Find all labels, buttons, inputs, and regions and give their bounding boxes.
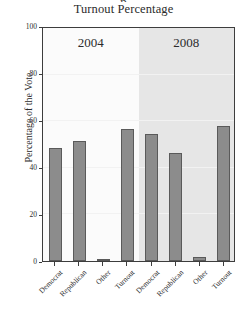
plot-area: 2004 2008 [42,27,235,262]
x-tick-mark [102,262,103,266]
bar [97,259,110,261]
chart-title: Turnout Percentage [0,2,247,16]
bar [193,257,206,261]
bar [121,129,134,261]
panel-label-2004: 2004 [43,35,139,50]
gridline-20 [43,213,234,214]
panel-label-2008: 2008 [139,35,235,50]
x-tick-mark [78,262,79,266]
bar [217,126,230,261]
bar [73,141,86,261]
x-tick-mark [54,262,55,266]
y-tick-label: 0 [3,258,37,266]
gridline-80 [43,74,234,75]
y-tick-mark [39,121,42,122]
x-tick-mark [223,262,224,266]
bar [169,153,182,261]
y-tick-mark [39,74,42,75]
x-tick-mark [126,262,127,266]
y-tick-label: 20 [3,211,37,219]
chart-figure: p Turnout Percentage 2004 2008 020406080… [0,0,247,318]
bar [49,148,62,261]
y-tick-mark [39,215,42,216]
gridline-40 [43,167,234,168]
y-tick-mark [39,262,42,263]
x-tick-mark [175,262,176,266]
y-axis-title: Percentage of the Vote [23,38,34,198]
x-tick-mark [151,262,152,266]
y-tick-label: 100 [3,23,37,31]
y-tick-mark [39,27,42,28]
y-tick-mark [39,168,42,169]
x-tick-mark [199,262,200,266]
bar [145,134,158,261]
gridline-60 [43,120,234,121]
